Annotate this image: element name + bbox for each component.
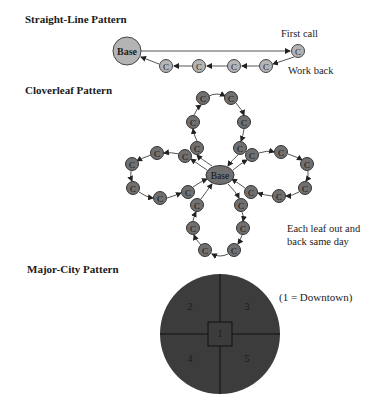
call-node: C bbox=[228, 60, 241, 73]
call-node: C bbox=[301, 158, 314, 171]
svg-text:C: C bbox=[202, 246, 208, 256]
call-node: C bbox=[151, 147, 164, 160]
zone-3-label: 3 bbox=[245, 301, 250, 312]
svg-text:C: C bbox=[194, 144, 200, 154]
call-node: C bbox=[193, 60, 206, 73]
call-node: C bbox=[260, 60, 273, 73]
svg-text:C: C bbox=[194, 201, 200, 211]
call-node: C bbox=[187, 222, 200, 235]
call-node: C bbox=[160, 60, 173, 73]
svg-text:Base: Base bbox=[211, 171, 229, 181]
call-node: C bbox=[273, 190, 286, 203]
call-node: C bbox=[238, 116, 251, 129]
svg-text:Base: Base bbox=[117, 46, 138, 57]
svg-text:C: C bbox=[249, 151, 255, 161]
svg-text:C: C bbox=[304, 160, 310, 170]
svg-text:C: C bbox=[276, 192, 282, 202]
svg-text:C: C bbox=[263, 62, 269, 72]
call-node: C bbox=[127, 182, 140, 195]
straight-line-diagram: Base C C C C C bbox=[113, 37, 305, 73]
svg-text:C: C bbox=[130, 184, 136, 194]
call-node: C bbox=[235, 199, 248, 212]
svg-text:C: C bbox=[190, 118, 196, 128]
svg-text:C: C bbox=[248, 188, 254, 198]
cloverleaf-nodes: Base C C C C C C C C C C C C C C C C C C… bbox=[126, 92, 314, 257]
svg-text:C: C bbox=[295, 47, 301, 57]
call-node: C bbox=[225, 92, 238, 105]
call-node: C bbox=[299, 182, 312, 195]
svg-text:C: C bbox=[185, 188, 191, 198]
diagram-canvas: Base C C C C C bbox=[0, 0, 379, 412]
call-node: C bbox=[275, 146, 288, 159]
svg-text:C: C bbox=[228, 94, 234, 104]
svg-text:C: C bbox=[237, 144, 243, 154]
call-node: C bbox=[191, 199, 204, 212]
svg-text:C: C bbox=[302, 184, 308, 194]
zone-2-label: 2 bbox=[188, 301, 193, 312]
call-node: C bbox=[234, 142, 247, 155]
zone-4-label: 4 bbox=[188, 353, 193, 364]
call-node: C bbox=[179, 150, 192, 163]
svg-text:C: C bbox=[241, 118, 247, 128]
svg-text:C: C bbox=[154, 149, 160, 159]
call-node: C bbox=[191, 142, 204, 155]
svg-text:C: C bbox=[278, 148, 284, 158]
call-node: C bbox=[246, 149, 259, 162]
call-node: C bbox=[199, 244, 212, 257]
call-node: C bbox=[292, 45, 305, 58]
base-node: Base bbox=[113, 37, 141, 65]
major-city-diagram: 1 2 3 4 5 bbox=[160, 274, 280, 394]
svg-text:C: C bbox=[231, 62, 237, 72]
call-node: C bbox=[245, 186, 258, 199]
call-node: C bbox=[197, 92, 210, 105]
zone-1-label: 1 bbox=[218, 328, 223, 339]
cloverleaf-base-node: Base bbox=[206, 166, 234, 185]
svg-text:C: C bbox=[129, 160, 135, 170]
svg-text:C: C bbox=[196, 62, 202, 72]
zone-5-label: 5 bbox=[245, 353, 250, 364]
call-node: C bbox=[182, 186, 195, 199]
svg-text:C: C bbox=[182, 152, 188, 162]
call-node: C bbox=[187, 116, 200, 129]
svg-text:C: C bbox=[157, 194, 163, 204]
svg-text:C: C bbox=[163, 62, 169, 72]
svg-text:C: C bbox=[231, 246, 237, 256]
call-node: C bbox=[126, 158, 139, 171]
svg-text:C: C bbox=[190, 224, 196, 234]
call-node: C bbox=[154, 192, 167, 205]
svg-text:C: C bbox=[238, 201, 244, 211]
call-node: C bbox=[237, 222, 250, 235]
call-node: C bbox=[228, 244, 241, 257]
svg-text:C: C bbox=[240, 224, 246, 234]
svg-text:C: C bbox=[200, 94, 206, 104]
